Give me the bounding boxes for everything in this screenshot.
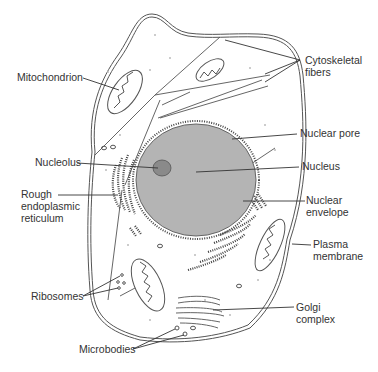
- ribosomes: [117, 274, 126, 290]
- label-nuclear-envelope-line2: envelope: [306, 206, 349, 218]
- label-nuclear-pore: Nuclear pore: [300, 127, 360, 139]
- golgi-complex: [176, 296, 224, 328]
- mitochondrion-upper-right: [192, 54, 227, 85]
- cell-diagram: Mitochondrion Cytoskeletal fibers Nuclea…: [0, 0, 378, 372]
- label-ribosomes: Ribosomes: [31, 290, 84, 302]
- label-nuclear-envelope-line1: Nuclear: [306, 194, 343, 206]
- label-plasma-membrane-line2: membrane: [313, 250, 363, 262]
- label-golgi-line1: Golgi: [296, 301, 321, 313]
- label-rough-er-line3: reticulum: [21, 212, 64, 224]
- label-mitochondrion: Mitochondrion: [17, 71, 83, 83]
- mitochondrion-lower-left: [124, 254, 171, 316]
- label-plasma-membrane-line1: Plasma: [313, 238, 348, 250]
- label-cytoskeletal-fibers-line2: fibers: [305, 66, 331, 78]
- label-rough-er-line2: endoplasmic: [21, 200, 80, 212]
- label-cytoskeletal-fibers-line1: Cytoskeletal: [305, 54, 362, 66]
- label-golgi-line2: complex: [296, 313, 336, 325]
- label-nucleolus: Nucleolus: [35, 156, 81, 168]
- label-microbodies: Microbodies: [79, 343, 136, 355]
- microbodies: [175, 326, 187, 336]
- label-nucleus: Nucleus: [302, 160, 340, 172]
- label-rough-er-line1: Rough: [21, 188, 52, 200]
